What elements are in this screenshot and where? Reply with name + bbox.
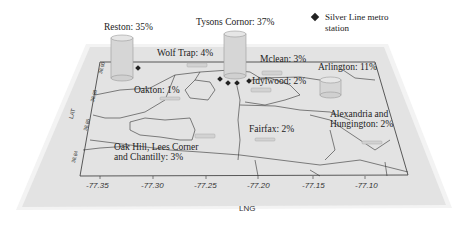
label-wolf-trap: Wolf Trap: 4%	[157, 48, 213, 59]
x-tick: -77.35	[86, 181, 109, 190]
x-tick: -77.10	[355, 181, 378, 190]
legend-label-line1: Silver Line metro	[325, 12, 405, 23]
label-fairfax: Fairfax: 2%	[249, 124, 294, 135]
x-tick: -77.25	[194, 181, 217, 190]
legend-label-line2: station	[325, 23, 405, 34]
bar-oakton	[160, 97, 180, 100]
bar-mclean	[262, 71, 282, 75]
x-tick: -77.15	[302, 181, 325, 190]
label-oak-hill-2: and Chantilly: 3%	[114, 152, 183, 163]
label-tysons: Tysons Cornor: 37%	[196, 17, 275, 28]
bar-fairfax	[255, 138, 275, 141]
label-idylwood: Idylwood: 2%	[252, 76, 306, 87]
cylinder-tysons	[224, 31, 246, 79]
bar-wolf-trap	[187, 63, 207, 67]
label-mclean: Mclean: 3%	[260, 54, 306, 65]
label-arlington: Arlington: 11%	[318, 62, 377, 73]
cylinder-arlington	[320, 77, 341, 98]
chart-canvas	[0, 0, 467, 242]
cylinder-reston	[111, 35, 133, 81]
bar-oak-hill	[195, 134, 215, 138]
label-reston: Reston: 35%	[104, 22, 153, 33]
x-tick: -77.30	[141, 181, 164, 190]
x-tick: -77.20	[247, 181, 270, 190]
label-alexandria-2: Hungington: 2%	[330, 119, 393, 130]
label-oakton: Oakton: 1%	[134, 85, 180, 96]
map-chart: Reston: 35% Tysons Cornor: 37% Wolf Trap…	[0, 0, 467, 242]
bar-idylwood	[251, 88, 271, 92]
x-axis-title: LNG	[239, 204, 255, 213]
bar-alexandria	[362, 141, 382, 144]
